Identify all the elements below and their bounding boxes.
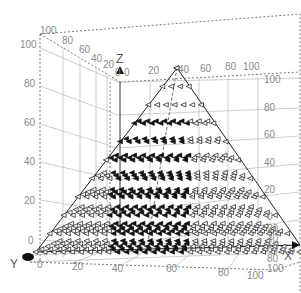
cone-marker-icon bbox=[190, 213, 195, 217]
svg-text:60: 60 bbox=[24, 117, 36, 128]
cone-marker-icon bbox=[235, 158, 240, 162]
cone-marker-icon bbox=[184, 231, 189, 235]
cone-marker-icon bbox=[193, 231, 198, 235]
cone-marker-icon bbox=[157, 231, 162, 235]
svg-text:0: 0 bbox=[28, 235, 34, 246]
cone-marker-icon bbox=[57, 239, 62, 243]
svg-text:60: 60 bbox=[264, 129, 276, 140]
cone-marker-icon bbox=[169, 137, 174, 141]
cone-marker-icon bbox=[84, 239, 89, 243]
cone-marker-icon bbox=[177, 84, 182, 88]
y-axis-label: Y bbox=[10, 257, 18, 271]
svg-text:40: 40 bbox=[91, 53, 103, 64]
cone-marker-icon bbox=[145, 155, 150, 159]
svg-text:60: 60 bbox=[166, 263, 178, 274]
x-axis-label: X bbox=[284, 249, 292, 263]
cone-marker-icon bbox=[181, 103, 186, 107]
svg-text:40: 40 bbox=[112, 263, 124, 274]
cone-marker-icon bbox=[145, 224, 150, 228]
svg-text:20: 20 bbox=[264, 184, 276, 195]
cone-marker-icon bbox=[178, 250, 183, 254]
3d-cone-plot: Z X Y 100 80 60 40 20 0 100 80 60 40 20 … bbox=[0, 0, 301, 293]
cone-marker-icon bbox=[138, 171, 143, 175]
svg-text:20: 20 bbox=[72, 261, 84, 272]
cone-marker-icon bbox=[144, 192, 149, 196]
cone-marker-icon bbox=[157, 171, 162, 175]
cone-marker-icon bbox=[111, 171, 116, 175]
cone-marker-icon bbox=[180, 213, 185, 217]
svg-text:20: 20 bbox=[24, 195, 36, 206]
cone-marker-icon bbox=[169, 250, 174, 254]
cone-marker-icon bbox=[120, 239, 125, 243]
cone-marker-icon bbox=[144, 213, 149, 217]
cone-marker-icon bbox=[134, 213, 139, 217]
cone-marker-icon bbox=[174, 239, 179, 243]
cone-marker-icon bbox=[163, 244, 168, 248]
cone-marker-icon bbox=[146, 187, 151, 191]
svg-text:20: 20 bbox=[103, 59, 115, 70]
cone-marker-icon bbox=[93, 239, 98, 243]
cone-marker-icon bbox=[129, 171, 134, 175]
cone-marker-icon bbox=[223, 139, 228, 143]
cone-marker-icon bbox=[129, 231, 134, 235]
svg-text:80: 80 bbox=[62, 35, 74, 46]
svg-text:20: 20 bbox=[148, 65, 160, 76]
cone-marker-icon bbox=[73, 207, 78, 211]
cone-marker-icon bbox=[137, 187, 142, 191]
svg-text:40: 40 bbox=[178, 64, 190, 75]
cone-marker-icon bbox=[166, 171, 171, 175]
svg-text:80: 80 bbox=[264, 102, 276, 113]
cone-marker-icon bbox=[111, 239, 116, 243]
cone-marker-icon bbox=[66, 239, 71, 243]
cone-marker-icon bbox=[260, 195, 265, 199]
cone-marker-icon bbox=[102, 239, 107, 243]
cone-marker-icon bbox=[100, 187, 105, 191]
cone-marker-icon bbox=[162, 213, 167, 217]
cone-marker-icon bbox=[120, 231, 125, 235]
cone-marker-icon bbox=[160, 250, 165, 254]
x-arrow-icon bbox=[292, 241, 300, 249]
svg-text:80: 80 bbox=[24, 78, 36, 89]
cone-marker-icon bbox=[119, 187, 124, 191]
svg-text:100: 100 bbox=[40, 25, 57, 36]
cone-marker-icon bbox=[128, 187, 133, 191]
cone-marker-icon bbox=[122, 153, 127, 157]
cone-marker-icon bbox=[58, 226, 63, 230]
cone-marker-icon bbox=[91, 187, 96, 191]
cone-marker-icon bbox=[86, 221, 91, 225]
cone-marker-icon bbox=[206, 250, 211, 254]
svg-text:60: 60 bbox=[200, 63, 212, 74]
cone-marker-icon bbox=[208, 213, 213, 217]
svg-text:0: 0 bbox=[124, 67, 130, 78]
cone-marker-icon bbox=[63, 224, 68, 228]
svg-text:80: 80 bbox=[225, 61, 237, 72]
cone-marker-icon bbox=[113, 153, 118, 157]
cone-marker-icon bbox=[136, 224, 141, 228]
cone-marker-icon bbox=[135, 192, 140, 196]
cone-marker-icon bbox=[124, 205, 129, 209]
svg-text:80: 80 bbox=[218, 267, 230, 278]
svg-text:0: 0 bbox=[115, 67, 121, 78]
cone-marker-icon bbox=[151, 137, 156, 141]
cone-marker-icon bbox=[145, 244, 150, 248]
cone-marker-icon bbox=[297, 250, 301, 254]
cone-marker-icon bbox=[51, 241, 56, 245]
cone-marker-icon bbox=[133, 137, 138, 141]
cone-marker-icon bbox=[133, 250, 138, 254]
cone-marker-icon bbox=[165, 207, 170, 211]
top-y-ticks: 100 80 60 40 20 0 bbox=[40, 25, 121, 78]
cone-marker-icon bbox=[169, 84, 174, 88]
cone-marker-icon bbox=[115, 205, 120, 209]
cone-marker-icon bbox=[248, 176, 253, 180]
cone-marker-icon bbox=[86, 190, 91, 194]
cone-marker-icon bbox=[215, 250, 220, 254]
cone-marker-icon bbox=[106, 205, 111, 209]
cone-marker-icon bbox=[101, 171, 106, 175]
svg-text:100: 100 bbox=[247, 270, 264, 281]
svg-text:100: 100 bbox=[264, 74, 281, 85]
cone-marker-icon bbox=[166, 231, 171, 235]
cone-marker-icon bbox=[175, 231, 180, 235]
cone-marker-icon bbox=[178, 137, 183, 141]
cone-marker-icon bbox=[174, 207, 179, 211]
z-axis-label: Z bbox=[116, 52, 123, 66]
